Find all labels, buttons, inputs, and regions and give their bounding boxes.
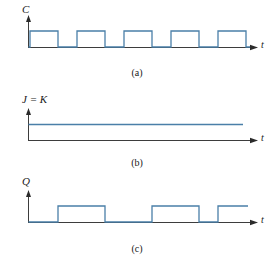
caption-b: (b)	[0, 158, 274, 168]
caption-a: (a)	[0, 68, 274, 78]
y-axis-arrowhead-c	[26, 190, 31, 197]
x-axis-arrowhead-c	[250, 220, 258, 225]
y-axis-arrowhead-a	[26, 15, 31, 22]
panel-c-plot	[0, 172, 274, 244]
waveform-q-output	[29, 206, 249, 222]
y-axis-label-jk: J = K	[22, 94, 47, 105]
panel-q-output: Q t (c)	[0, 172, 274, 267]
panel-clock-signal: C t (a)	[0, 0, 274, 88]
x-axis-arrowhead-a	[250, 45, 258, 50]
x-axis-label-time-b: t	[261, 133, 264, 143]
x-axis-label-time-c: t	[261, 215, 264, 225]
caption-c: (c)	[0, 244, 274, 254]
panel-jk-signal: J = K t (b)	[0, 88, 274, 172]
panel-a-plot	[0, 0, 274, 68]
waveform-clock	[29, 31, 251, 47]
y-axis-label-clock: C	[22, 4, 29, 15]
y-axis-label-q: Q	[22, 176, 30, 187]
x-axis-label-time-a: t	[261, 40, 264, 50]
timing-diagram-figure: C t (a) J = K t (b)	[0, 0, 274, 267]
x-axis-arrowhead-b	[250, 138, 258, 143]
y-axis-arrowhead-b	[26, 108, 31, 115]
